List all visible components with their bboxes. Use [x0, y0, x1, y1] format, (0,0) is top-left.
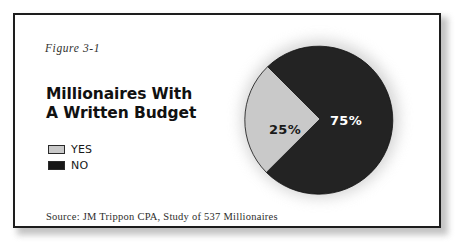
chart-legend: YES NO [48, 143, 92, 175]
legend-swatch-yes-icon [48, 145, 65, 154]
figure-number-label: Figure 3-1 [45, 42, 100, 54]
figure-panel: Figure 3-1 Millionaires With A Written B… [0, 0, 461, 243]
pie-chart: 75% 25% [233, 32, 407, 206]
legend-item-no: NO [48, 159, 92, 172]
legend-label-no: NO [71, 160, 88, 171]
chart-title-line-1: Millionaires With [46, 85, 236, 104]
chart-title: Millionaires With A Written Budget [46, 85, 236, 123]
chart-title-line-2: A Written Budget [46, 104, 236, 123]
legend-swatch-no-icon [48, 161, 65, 170]
pie-chart-svg: 75% 25% [233, 32, 407, 206]
pie-label-no: 75% [330, 113, 362, 128]
source-note: Source: JM Trippon CPA, Study of 537 Mil… [46, 211, 278, 222]
legend-item-yes: YES [48, 143, 92, 156]
legend-label-yes: YES [71, 144, 92, 155]
pie-label-yes: 25% [269, 122, 301, 137]
